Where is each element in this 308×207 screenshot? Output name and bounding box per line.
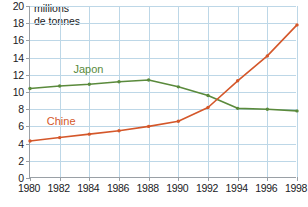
series-line-japon (30, 80, 297, 111)
y-axis-tick-label: 14 (13, 52, 24, 64)
y-axis-tick-label: 20 (13, 0, 24, 12)
series-label-chine: Chine (47, 115, 76, 127)
data-point-japon (295, 109, 298, 112)
x-axis-tick-label: 1996 (255, 182, 277, 194)
data-point-japon (266, 108, 269, 111)
x-axis-tick-label: 1988 (137, 182, 159, 194)
y-axis-tick-label: 6 (18, 120, 24, 132)
data-point-japon (177, 85, 180, 88)
x-axis-tick-label: 1982 (48, 182, 70, 194)
y-axis-tick-label: 10 (13, 86, 24, 98)
data-point-chine (266, 54, 269, 57)
data-point-chine (88, 132, 91, 135)
series-label-japon: Japon (74, 63, 104, 75)
y-axis-tick-label: 8 (18, 103, 24, 115)
line-chart: millions de tonnes 02468101214161820 198… (0, 0, 308, 207)
y-axis-tick-label: 16 (13, 34, 24, 46)
x-axis-tick-labels: 1980198219841986198819901992199419961998 (0, 182, 308, 202)
y-axis-tick-labels: 02468101214161820 (0, 0, 29, 207)
data-point-japon (28, 87, 31, 90)
data-point-chine (28, 139, 31, 142)
x-axis-tick-label: 1992 (196, 182, 218, 194)
y-axis-tick-label: 2 (18, 155, 24, 167)
gridline-vertical (297, 6, 298, 177)
y-axis-tick-label: 12 (13, 69, 24, 81)
data-point-japon (88, 83, 91, 86)
data-point-japon (147, 78, 150, 81)
x-axis-tick-label: 1980 (18, 182, 40, 194)
data-point-chine (147, 125, 150, 128)
data-point-chine (177, 120, 180, 123)
data-point-chine (206, 106, 209, 109)
x-axis-tick-label: 1998 (285, 182, 307, 194)
series-lines (30, 6, 297, 178)
data-point-japon (58, 84, 61, 87)
y-axis-tick-label: 18 (13, 17, 24, 29)
data-point-chine (58, 136, 61, 139)
data-point-chine (295, 23, 298, 26)
x-axis-tick-label: 1986 (107, 182, 129, 194)
x-axis-tick-label: 1990 (166, 182, 188, 194)
data-point-japon (236, 107, 239, 110)
x-axis-tick-label: 1994 (226, 182, 248, 194)
y-axis-tick-label: 4 (18, 138, 24, 150)
data-point-japon (206, 94, 209, 97)
x-axis-tick (297, 177, 298, 181)
data-point-japon (117, 80, 120, 83)
plot-area (29, 6, 296, 178)
data-point-chine (236, 79, 239, 82)
x-axis-tick-label: 1984 (77, 182, 99, 194)
data-point-chine (117, 129, 120, 132)
